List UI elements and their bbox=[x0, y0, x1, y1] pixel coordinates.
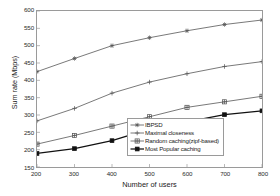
legend-item: Random caching(zipf-based) bbox=[130, 137, 220, 145]
x-tick-label: 500 bbox=[135, 170, 165, 177]
x-axis-label: Number of users bbox=[36, 180, 263, 189]
x-tick-label: 200 bbox=[21, 170, 51, 177]
legend-item: Most Popular caching bbox=[130, 145, 220, 153]
legend-label: Maximal closeness bbox=[145, 129, 194, 137]
legend-label: IBPSD bbox=[145, 121, 163, 129]
y-axis-label: Sum rate (Mbps) bbox=[10, 23, 19, 143]
x-tick-label: 600 bbox=[172, 170, 202, 177]
legend-marker-icon bbox=[130, 145, 145, 153]
legend-marker-icon bbox=[130, 121, 145, 129]
x-tick-label: 800 bbox=[248, 170, 278, 177]
y-tick-label: 200 bbox=[0, 147, 34, 153]
legend-marker-icon bbox=[130, 129, 145, 137]
series-1 bbox=[37, 59, 262, 123]
x-tick-label: 700 bbox=[210, 170, 240, 177]
legend-label: Random caching(zipf-based) bbox=[145, 137, 219, 145]
legend-marker-icon bbox=[130, 137, 145, 145]
legend-item: Maximal closeness bbox=[130, 129, 220, 137]
legend-item: IBPSD bbox=[130, 121, 220, 129]
y-tick-label: 600 bbox=[0, 7, 34, 13]
series-0 bbox=[37, 18, 262, 74]
x-axis-tick-labels: 200300400500600700800 bbox=[36, 170, 263, 180]
chart-legend: IBPSDMaximal closenessRandom caching(zip… bbox=[127, 118, 224, 156]
chart-figure: 150200250300350400450500550600 200300400… bbox=[0, 0, 280, 196]
x-tick-label: 300 bbox=[59, 170, 89, 177]
x-tick-label: 400 bbox=[97, 170, 127, 177]
legend-label: Most Popular caching bbox=[145, 145, 201, 153]
